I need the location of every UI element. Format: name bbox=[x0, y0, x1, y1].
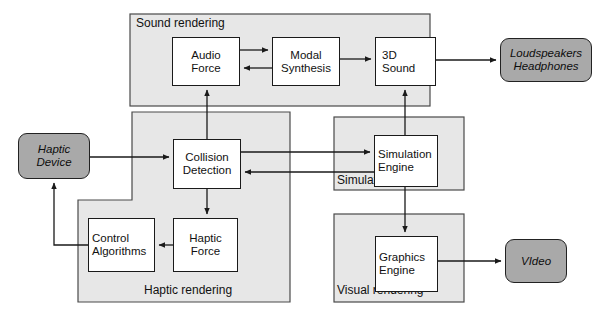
node-video[interactable]: VIdeo bbox=[505, 239, 567, 283]
node-collision-detection-line-2: Detection bbox=[183, 164, 232, 177]
node-simulation-engine-line-1: Simulation bbox=[378, 148, 432, 161]
node-control-algorithms[interactable]: Control Algorithms bbox=[88, 218, 155, 272]
node-3d-sound-line-2: Sound bbox=[382, 62, 415, 75]
node-simulation-engine-line-2: Engine bbox=[378, 161, 414, 174]
node-3d-sound-line-1: 3D bbox=[382, 49, 397, 62]
node-modal-synthesis-line-1: Modal bbox=[290, 49, 321, 62]
node-audio-force-line-1: Audio bbox=[191, 49, 220, 62]
node-modal-synthesis[interactable]: Modal Synthesis bbox=[272, 37, 340, 86]
panel-label-haptic-rendering: Haptic rendering bbox=[144, 283, 232, 297]
panel-label-sound-rendering: Sound rendering bbox=[136, 16, 225, 30]
node-video-line-1: VIdeo bbox=[521, 255, 551, 268]
node-haptic-device[interactable]: Haptic Device bbox=[18, 133, 90, 179]
node-haptic-force[interactable]: Haptic Force bbox=[173, 218, 238, 272]
node-graphics-engine-line-1: Graphics bbox=[379, 251, 425, 264]
node-haptic-device-line-1: Haptic bbox=[38, 143, 71, 156]
node-audio-force-line-2: Force bbox=[191, 62, 220, 75]
diagram-canvas: Sound rendering Haptic rendering Simulat… bbox=[0, 0, 613, 317]
node-graphics-engine[interactable]: Graphics Engine bbox=[375, 236, 438, 292]
node-haptic-force-line-2: Force bbox=[191, 245, 220, 258]
node-loudspeakers-line-2: Headphones bbox=[513, 60, 578, 73]
node-simulation-engine[interactable]: Simulation Engine bbox=[374, 135, 438, 187]
node-loudspeakers-line-1: Loudspeakers bbox=[510, 47, 582, 60]
node-collision-detection-line-1: Collision bbox=[185, 151, 228, 164]
node-haptic-force-line-1: Haptic bbox=[189, 232, 222, 245]
node-loudspeakers-headphones[interactable]: Loudspeakers Headphones bbox=[500, 38, 592, 82]
node-audio-force[interactable]: Audio Force bbox=[172, 37, 240, 86]
node-control-algorithms-line-2: Algorithms bbox=[92, 245, 146, 258]
node-control-algorithms-line-1: Control bbox=[92, 232, 129, 245]
node-graphics-engine-line-2: Engine bbox=[379, 264, 415, 277]
node-3d-sound[interactable]: 3D Sound bbox=[375, 37, 436, 86]
node-collision-detection[interactable]: Collision Detection bbox=[173, 139, 241, 189]
node-modal-synthesis-line-2: Synthesis bbox=[281, 62, 331, 75]
node-haptic-device-line-2: Device bbox=[36, 156, 71, 169]
